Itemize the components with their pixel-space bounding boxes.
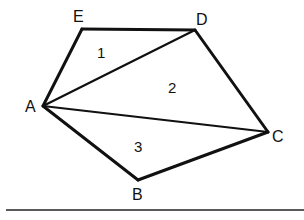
edge-e-d bbox=[82, 29, 195, 30]
vertex-label-b: B bbox=[132, 186, 143, 203]
vertex-label-a: A bbox=[25, 98, 36, 115]
region-label-3: 3 bbox=[134, 138, 142, 155]
vertex-label-e: E bbox=[73, 8, 84, 25]
region-label-2: 2 bbox=[168, 79, 176, 96]
edge-c-b bbox=[138, 132, 268, 180]
diagonal-a-c bbox=[43, 106, 268, 132]
edge-b-a bbox=[43, 106, 138, 180]
region-label-1: 1 bbox=[97, 44, 105, 61]
pentagon-diagram: E D A C B 1 2 3 bbox=[0, 0, 304, 220]
edge-d-c bbox=[195, 30, 268, 132]
vertex-label-c: C bbox=[272, 128, 284, 145]
edge-a-e bbox=[43, 29, 82, 106]
vertex-label-d: D bbox=[196, 11, 208, 28]
